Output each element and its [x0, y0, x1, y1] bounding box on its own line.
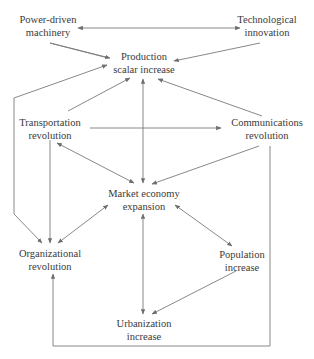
node-label-line2: expansion	[108, 201, 179, 214]
edge-comms-market	[152, 146, 259, 184]
node-technological-innovation: Technological innovation	[237, 14, 296, 39]
diagram-canvas: Power-driven machinery Technological inn…	[0, 0, 314, 359]
node-label-line1: Urbanization	[117, 318, 172, 331]
node-power-driven-machinery: Power-driven machinery	[20, 14, 77, 39]
node-label-line1: Transportation	[19, 117, 80, 130]
node-organizational-revolution: Organizational revolution	[19, 248, 81, 273]
node-label-line1: Production	[113, 51, 175, 64]
edge-market-org	[58, 205, 108, 243]
node-label-line2: machinery	[20, 27, 77, 40]
node-transportation-revolution: Transportation revolution	[19, 117, 80, 142]
node-communications-revolution: Communications revolution	[231, 117, 303, 142]
edge-tech-production	[174, 43, 260, 61]
node-label-line1: Organizational	[19, 248, 81, 261]
edge-transport-production	[68, 78, 130, 111]
edge-comms-production	[158, 79, 262, 116]
node-label-line2: innovation	[237, 27, 296, 40]
node-label-line1: Population	[219, 249, 265, 262]
edge-population-urban	[152, 271, 236, 314]
node-urbanization-increase: Urbanization increase	[117, 318, 172, 343]
edge-comms-loop-org	[53, 146, 270, 346]
node-label-line2: increase	[117, 331, 172, 344]
edge-transport-market	[57, 143, 134, 183]
node-label-line2: revolution	[19, 130, 80, 143]
node-label-line1: Market economy	[108, 188, 179, 201]
node-label-line2: revolution	[231, 130, 303, 143]
node-market-economy-expansion: Market economy expansion	[108, 188, 179, 213]
node-label-line1: Power-driven	[20, 14, 77, 27]
node-label-line1: Communications	[231, 117, 303, 130]
edge-power-production-head	[50, 43, 110, 58]
node-production-scalar-increase: Production scalar increase	[113, 51, 175, 76]
node-label-line2: increase	[219, 262, 265, 275]
node-label-line2: scalar increase	[113, 64, 175, 77]
edge-market-population	[175, 205, 232, 246]
edge-left-loop-org	[14, 214, 42, 243]
node-label-line2: revolution	[19, 261, 81, 274]
node-label-line1: Technological	[237, 14, 296, 27]
node-population-increase: Population increase	[219, 249, 265, 274]
